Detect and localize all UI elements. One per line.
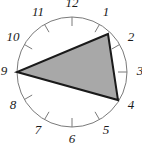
hour-tick-1	[95, 24, 100, 32]
clock-face-diagram: 123456789101112	[0, 0, 142, 147]
hour-label-8: 8	[10, 97, 17, 112]
hour-label-4: 4	[128, 97, 135, 112]
hour-tick-2	[112, 45, 120, 50]
hour-tick-5	[95, 112, 100, 120]
hour-label-3: 3	[136, 63, 142, 78]
hour-tick-11	[45, 24, 50, 32]
hour-label-7: 7	[35, 122, 42, 137]
hour-tick-10	[24, 45, 32, 50]
hour-label-2: 2	[128, 29, 135, 44]
hour-tick-8	[24, 95, 32, 100]
shaded-triangle	[17, 34, 118, 100]
hour-label-11: 11	[32, 4, 44, 19]
hour-tick-7	[45, 112, 50, 120]
clock-diagram-svg: 123456789101112	[0, 0, 142, 147]
hour-label-5: 5	[103, 122, 110, 137]
hour-label-12: 12	[66, 0, 80, 10]
hour-label-10: 10	[7, 29, 21, 44]
hour-label-9: 9	[1, 63, 8, 78]
hour-label-6: 6	[69, 131, 76, 146]
hour-label-1: 1	[103, 4, 110, 19]
